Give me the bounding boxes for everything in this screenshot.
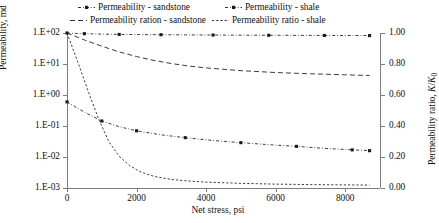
y-axis-right-ticklabel: 0.00 [389, 183, 405, 192]
data-point-marker [239, 141, 242, 144]
legend-label: Permeability - sandstone [98, 3, 190, 12]
data-point-marker [368, 149, 371, 152]
data-point-marker [295, 145, 298, 148]
x-axis-tick [67, 188, 68, 192]
y-axis-left-ticklabel: 1.E-01 [25, 121, 60, 130]
y-axis-left-ticklabel: 1.E+02 [25, 28, 60, 37]
data-point-marker [159, 33, 162, 36]
y-axis-left-ticklabel: 1.E+01 [25, 59, 60, 68]
data-point-marker [368, 34, 371, 37]
y-axis-right-tick [381, 188, 385, 189]
data-point-marker [135, 129, 138, 132]
y-axis-right-tick [381, 64, 385, 65]
x-axis-ticklabel: 2000 [112, 194, 162, 203]
data-series-layer [67, 33, 380, 188]
legend-label: Permeability ratio - shale [232, 16, 326, 25]
y-axis-right-line [380, 33, 381, 188]
y-axis-right-tick [381, 157, 385, 158]
series-line [67, 102, 370, 151]
dotted-line-icon [212, 16, 229, 25]
y-axis-left-title: Permeability, md [0, 5, 9, 70]
y-axis-right-title-text: Permeability ratio, [427, 92, 437, 165]
legend-item-permeability-shale[interactable]: Permeability - shale [225, 1, 319, 14]
legend-item-permeability-ratio-shale[interactable]: Permeability ratio - shale [212, 14, 326, 27]
series-2 [65, 100, 371, 152]
y-axis-right-ticklabel: 0.60 [389, 90, 405, 99]
y-axis-left-ticklabel: 1.E+00 [25, 90, 60, 99]
x-axis-line [67, 188, 380, 189]
data-point-marker [323, 34, 326, 37]
x-axis-tick [276, 188, 277, 192]
data-point-marker [118, 33, 121, 36]
y-axis-right-tick [381, 126, 385, 127]
data-point-marker [100, 119, 103, 122]
x-axis-ticklabel: 0 [42, 194, 92, 203]
y-axis-right-title: Permeability ratio, K/K0 [428, 73, 439, 165]
y-axis-right-ticklabel: 0.40 [389, 121, 405, 130]
legend-label: Permeability - shale [245, 3, 319, 12]
data-point-marker [351, 148, 354, 151]
y-axis-right-ticklabel: 1.00 [389, 28, 405, 37]
y-axis-left-ticklabel: 1.E-02 [25, 152, 60, 161]
x-axis-tick [206, 188, 207, 192]
data-point-marker [65, 100, 68, 103]
y-axis-right-tick [381, 33, 385, 34]
y-axis-right-symbol-2: K [427, 77, 437, 83]
legend-item-permeability-sandstone[interactable]: Permeability - sandstone [78, 1, 190, 14]
y-axis-left-ticklabel: 1.E-03 [25, 183, 60, 192]
y-axis-right-slash: / [427, 83, 437, 86]
dash-dot-marker-icon [225, 3, 242, 12]
dash-dot-marker-icon [78, 3, 95, 12]
series-3 [67, 33, 370, 185]
x-axis-ticklabel: 8000 [320, 194, 370, 203]
x-axis-tick [137, 188, 138, 192]
plot-area: 1.E+021.E+011.E+001.E-011.E-021.E-03 1.0… [67, 33, 380, 188]
legend-label: Permeability ration - sandstone [90, 16, 206, 25]
legend-row-2: Permeability ration - sandstone Permeabi… [70, 14, 410, 27]
legend-row-1: Permeability - sandstone Permeability - … [70, 1, 410, 14]
data-point-marker [212, 33, 215, 36]
y-axis-right-ticklabel: 0.80 [389, 59, 405, 68]
data-point-marker [184, 136, 187, 139]
x-axis-title: Net stress, psi [0, 206, 436, 216]
data-point-marker [267, 34, 270, 37]
series-0 [65, 31, 371, 37]
x-axis-ticklabel: 4000 [181, 194, 231, 203]
data-point-marker [83, 32, 86, 35]
legend-item-permeability-ration-sandstone[interactable]: Permeability ration - sandstone [70, 14, 206, 27]
y-axis-right-symbol: K [427, 86, 437, 92]
x-axis-ticklabel: 6000 [251, 194, 301, 203]
chart-legend: Permeability - sandstone Permeability - … [70, 1, 410, 27]
x-axis-tick [345, 188, 346, 192]
series-line [67, 33, 370, 75]
series-1 [67, 33, 370, 75]
series-line [67, 33, 370, 185]
y-axis-right-ticklabel: 0.20 [389, 152, 405, 161]
y-axis-right-subscript: 0 [430, 73, 439, 77]
y-axis-right-tick [381, 95, 385, 96]
dashed-line-icon [70, 16, 87, 25]
